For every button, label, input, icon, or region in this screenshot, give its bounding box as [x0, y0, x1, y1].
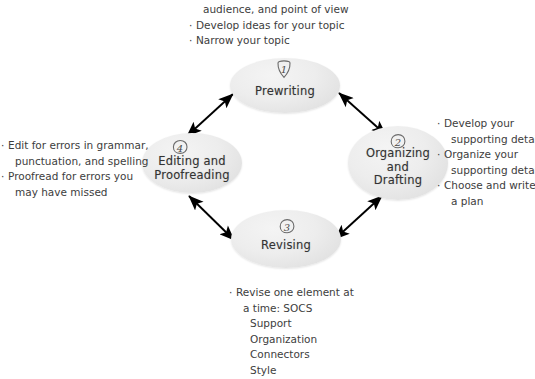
annotation-line: Choose and write: [444, 178, 535, 194]
annotation-line: supporting details: [444, 163, 535, 179]
annotation-line: Connectors: [236, 347, 406, 363]
annotation-line: punctuation, and spelling: [8, 154, 158, 170]
annotation-line: Narrow your topic: [196, 33, 406, 49]
annotation-editing: Edit for errors in grammar, punctuation,…: [8, 138, 158, 200]
step-number-4: 4: [177, 143, 183, 154]
step-number-badge-4: 4: [170, 139, 190, 158]
annotation-line: supporting details: [444, 132, 535, 148]
annotation-prewriting: audience, and point of view Develop idea…: [196, 2, 406, 49]
arrow-editing-prewriting: [187, 94, 233, 136]
step-number-2: 2: [395, 137, 401, 148]
annotation-line: a plan: [444, 194, 535, 210]
annotation-line: Revise one element at: [236, 285, 406, 301]
annotation-line: may have missed: [8, 185, 158, 201]
annotation-line: a time: SOCS: [236, 301, 406, 317]
writing-process-diagram: 1 Prewriting 2 Organizing and Drafting 3…: [0, 0, 535, 379]
annotation-line: Edit for errors in grammar,: [8, 138, 158, 154]
step-number-badge-3: 3: [277, 218, 297, 237]
annotation-revising: Revise one element at a time: SOCS Suppo…: [236, 285, 406, 378]
step-number-1: 1: [281, 64, 287, 75]
node-revising[interactable]: 3 Revising: [231, 210, 341, 268]
step-number-badge-1: 1: [274, 60, 294, 79]
node-label-editing: Editing and Proofreading: [154, 144, 229, 182]
annotation-line: Develop ideas for your topic: [196, 18, 406, 34]
annotation-line: Support: [236, 316, 406, 332]
step-number-3: 3: [284, 222, 290, 233]
arrow-revising-editing: [189, 196, 234, 240]
annotation-organizing: Develop your supporting details Organize…: [444, 116, 535, 209]
arrow-organizing-revising: [335, 196, 382, 239]
annotation-line: Proofread for errors you: [8, 169, 158, 185]
annotation-line: Style: [236, 363, 406, 379]
node-prewriting[interactable]: 1 Prewriting: [230, 58, 340, 113]
step-number-badge-2: 2: [388, 133, 408, 152]
node-organizing[interactable]: 2 Organizing and Drafting: [348, 126, 448, 200]
annotation-line: Organization: [236, 332, 406, 348]
annotation-line: Organize your: [444, 147, 535, 163]
annotation-line: audience, and point of view: [196, 2, 406, 18]
annotation-line: Develop your: [444, 116, 535, 132]
